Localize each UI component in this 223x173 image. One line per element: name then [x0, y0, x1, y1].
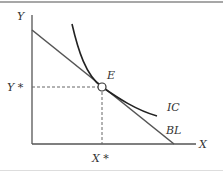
diagram-canvas: Y X Y * X * E IC BL [0, 0, 223, 173]
y-axis-label: Y [17, 10, 26, 23]
diagram-frame: Y X Y * X * E IC BL [0, 0, 223, 173]
y-star-label: Y * [7, 81, 24, 94]
x-axis-label: X [198, 138, 208, 151]
ic-label: IC [166, 101, 180, 114]
equilibrium-label: E [106, 69, 115, 82]
equilibrium-point [98, 83, 106, 91]
x-star-label: X * [91, 152, 109, 165]
bl-label: BL [165, 124, 181, 137]
